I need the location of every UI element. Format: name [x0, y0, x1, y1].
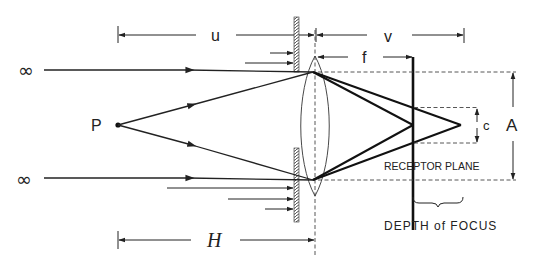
- infinity-ray-top: ∞: [18, 59, 313, 81]
- label-p: P: [91, 117, 102, 134]
- label-depth-of-focus: DEPTH of FOCUS: [384, 219, 497, 233]
- aperture-stop: [294, 17, 299, 222]
- infinity-symbol-bottom: ∞: [16, 168, 32, 190]
- label-h: H: [206, 229, 223, 251]
- dimension-f: f: [318, 49, 412, 66]
- optics-diagram: u v f ∞ ∞: [0, 0, 533, 261]
- label-u: u: [211, 27, 220, 44]
- blocked-rays-bottom: [167, 188, 293, 209]
- label-a: A: [506, 116, 518, 135]
- label-f: f: [362, 49, 367, 66]
- dimension-v: v: [316, 28, 464, 45]
- label-v: v: [384, 28, 392, 45]
- depth-of-focus-brace: [413, 197, 463, 207]
- dimension-u: u: [118, 26, 314, 44]
- object-point-p: P: [91, 72, 313, 180]
- dimension-h: H: [118, 229, 314, 251]
- infinity-symbol-top: ∞: [18, 59, 34, 81]
- label-receptor-plane: RECEPTOR PLANE: [384, 160, 480, 172]
- blocked-rays-top: [245, 53, 293, 63]
- infinity-ray-bottom: ∞: [16, 168, 313, 190]
- label-c: c: [483, 118, 490, 133]
